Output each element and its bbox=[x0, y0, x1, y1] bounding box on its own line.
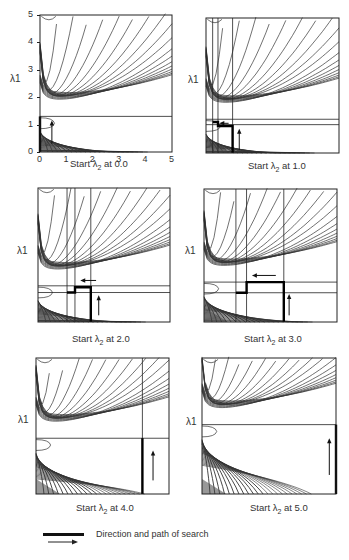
y-tick-label: 3 bbox=[28, 64, 33, 74]
panel-caption: Start λ2 at 2.0 bbox=[72, 333, 130, 346]
legend-arrow-icon bbox=[48, 538, 78, 546]
direction-arrow-icon bbox=[327, 438, 331, 475]
contour-plot bbox=[40, 15, 172, 152]
x-tick-label: 1 bbox=[63, 154, 68, 164]
y-axis-label: λ1 bbox=[10, 73, 21, 84]
y-axis-label: λ1 bbox=[188, 74, 199, 85]
panel-caption: Start λ2 at 1.0 bbox=[248, 160, 306, 173]
x-tick-label: 4 bbox=[143, 154, 148, 164]
direction-arrow-icon bbox=[252, 273, 276, 277]
legend-label: Direction and path of search bbox=[96, 529, 209, 539]
legend-heavy-line-icon bbox=[43, 533, 84, 536]
panel-caption: Start λ2 at 4.0 bbox=[76, 502, 134, 515]
y-tick-mark bbox=[37, 97, 40, 98]
direction-arrow-icon bbox=[151, 450, 155, 480]
y-axis-label: λ1 bbox=[17, 245, 28, 256]
y-axis-label: λ1 bbox=[186, 416, 197, 427]
y-tick-label: 4 bbox=[28, 36, 33, 46]
y-tick-mark bbox=[37, 125, 40, 126]
direction-arrow-icon bbox=[97, 295, 101, 315]
y-tick-label: 0 bbox=[28, 146, 33, 156]
panel-caption: Start λ2 at 5.0 bbox=[250, 502, 308, 515]
y-tick-mark bbox=[37, 70, 40, 71]
panel-caption: Start λ2 at 3.0 bbox=[244, 333, 302, 346]
y-tick-label: 1 bbox=[28, 119, 33, 129]
contour-plot bbox=[38, 188, 170, 322]
y-tick-label: 2 bbox=[28, 91, 33, 101]
x-tick-label: 5 bbox=[169, 154, 174, 164]
y-tick-label: 5 bbox=[28, 9, 33, 19]
contour-plot bbox=[202, 358, 336, 494]
contour-panel-start-2 bbox=[38, 188, 170, 322]
y-axis-label: λ1 bbox=[18, 414, 29, 425]
contour-panel-start-4 bbox=[36, 358, 169, 494]
y-tick-mark bbox=[37, 152, 40, 153]
contour-panel-start-0 bbox=[40, 15, 172, 152]
direction-arrow-icon bbox=[80, 278, 96, 282]
contour-plot bbox=[204, 189, 337, 322]
direction-arrow-icon bbox=[237, 129, 241, 151]
contour-plot bbox=[206, 18, 339, 153]
panel-caption: Start λ2 at 0.0 bbox=[70, 158, 128, 171]
contour-panel-start-1 bbox=[206, 18, 339, 153]
contour-panel-start-5 bbox=[202, 358, 336, 494]
y-tick-mark bbox=[37, 42, 40, 43]
direction-arrow-icon bbox=[287, 294, 291, 315]
y-axis-label: λ1 bbox=[185, 245, 196, 256]
contour-panel-start-3 bbox=[204, 189, 337, 322]
x-tick-label: 0 bbox=[37, 154, 42, 164]
y-tick-mark bbox=[37, 15, 40, 16]
contour-plot bbox=[36, 358, 169, 494]
